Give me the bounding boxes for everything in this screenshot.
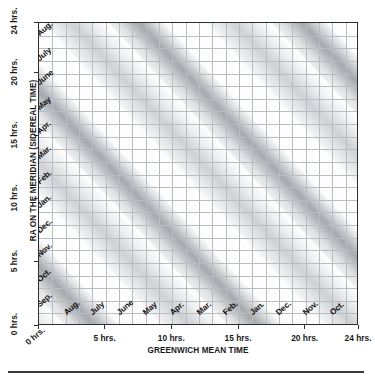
x-axis-tick-label: 5 hrs. — [82, 333, 128, 343]
x-axis-tick-label: 24 hrs. — [335, 333, 375, 343]
x-axis-tick-mark — [104, 325, 105, 329]
x-axis-tick-label: 20 hrs. — [282, 333, 328, 343]
y-axis-tick-label: 24 hrs. — [9, 0, 19, 43]
y-axis-tick-label: 20 hrs. — [9, 50, 19, 94]
x-axis-tick-mark — [304, 325, 305, 329]
y-axis-tick-mark — [34, 261, 38, 262]
x-axis-tick-mark — [358, 325, 359, 329]
y-axis-tick-label: 0 hrs. — [9, 302, 19, 346]
y-axis-tick-mark — [34, 22, 38, 23]
y-axis-title: RA ON THE MERIDIAN (SIDEREAL TIME) — [29, 66, 38, 256]
x-axis-tick-label: 10 hrs. — [148, 333, 194, 343]
y-axis-tick-label: 5 hrs. — [9, 239, 19, 283]
x-axis-tick-mark — [238, 325, 239, 329]
y-axis-tick-label: 15 hrs. — [9, 113, 19, 157]
x-axis-title: GREENWICH MEAN TIME — [38, 346, 358, 355]
x-axis-tick-mark — [171, 325, 172, 329]
y-axis-tick-label: 10 hrs. — [9, 176, 19, 220]
x-axis-tick-label: 15 hrs. — [215, 333, 261, 343]
chart-figure: Aug.JulyJuneMayApr.Mar.Feb.Jan.Dec.Nov.O… — [0, 0, 375, 385]
footer-rule — [8, 371, 364, 373]
diagonal-bands — [38, 22, 358, 325]
plot-area: Aug.JulyJuneMayApr.Mar.Feb.Jan.Dec.Nov.O… — [38, 22, 358, 325]
x-axis-tick-mark — [38, 325, 39, 329]
